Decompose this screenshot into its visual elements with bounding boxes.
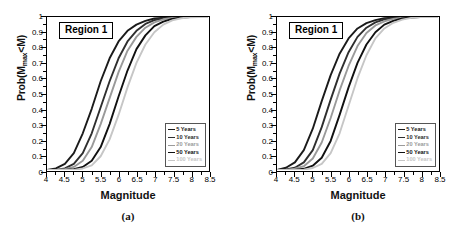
plot-area-b: Region 1 5 Years10 Years20 Years50 Years…: [276, 16, 440, 172]
y-tick-mark: [271, 47, 276, 48]
x-tick-mark: [404, 172, 405, 177]
legend-item[interactable]: 100 Years: [398, 156, 432, 164]
y-tick-labels-b: 00.10.20.30.40.50.60.70.80.91: [244, 16, 273, 172]
x-tick-mark: [155, 172, 156, 177]
x-tick-mark: [331, 172, 332, 177]
y-tick-minor: [273, 133, 276, 134]
x-tick-mark: [210, 172, 211, 177]
legend-item-label: 5 Years: [176, 127, 196, 133]
legend-item-label: 100 Years: [406, 157, 432, 163]
y-tick-mark: [271, 32, 276, 33]
x-tick-mark: [312, 172, 313, 177]
legend-item[interactable]: 100 Years: [168, 156, 202, 164]
x-tick-mark: [367, 172, 368, 177]
y-tick-mark: [41, 94, 46, 95]
x-tick-minor: [303, 172, 304, 175]
y-tick-mark: [41, 63, 46, 64]
y-tick-minor: [273, 164, 276, 165]
figure-container: Prob(Mmax<M) 00.10.20.30.40.50.60.70.80.…: [0, 0, 459, 245]
legend-item[interactable]: 10 Years: [168, 134, 202, 142]
x-axis-title-b: Magnitude: [276, 189, 440, 201]
x-tick-minor: [164, 172, 165, 175]
x-tick-mark: [46, 172, 47, 177]
panel-letter-a: (a): [46, 210, 210, 222]
y-tick-mark: [271, 156, 276, 157]
y-tick-mark: [271, 78, 276, 79]
legend-item[interactable]: 5 Years: [398, 126, 432, 134]
y-tick-minor: [273, 117, 276, 118]
x-tick-minor: [358, 172, 359, 175]
x-tick-mark: [294, 172, 295, 177]
y-tick-minor: [43, 117, 46, 118]
panel-b: Prob(Mmax<M) 00.10.20.30.40.50.60.70.80.…: [230, 0, 459, 245]
legend-line-swatch: [168, 137, 175, 138]
x-tick-minor: [201, 172, 202, 175]
x-tick-mark: [349, 172, 350, 177]
legend-line-swatch: [398, 152, 405, 153]
legend-item-label: 20 Years: [406, 142, 429, 148]
y-tick-minor: [43, 86, 46, 87]
panel-a: Prob(Mmax<M) 00.10.20.30.40.50.60.70.80.…: [0, 0, 229, 245]
y-tick-minor: [43, 149, 46, 150]
y-tick-minor: [273, 86, 276, 87]
y-tick-minor: [273, 24, 276, 25]
x-tick-mark: [64, 172, 65, 177]
x-tick-mark: [119, 172, 120, 177]
y-tick-minor: [273, 71, 276, 72]
x-tick-minor: [183, 172, 184, 175]
y-tick-minor: [43, 133, 46, 134]
legend-item[interactable]: 50 Years: [168, 149, 202, 157]
legend-b: 5 Years10 Years20 Years50 Years100 Years: [395, 123, 436, 167]
legend-item[interactable]: 10 Years: [398, 134, 432, 142]
y-tick-minor: [43, 39, 46, 40]
x-tick-mark: [276, 172, 277, 177]
x-axis-title-a: Magnitude: [46, 189, 210, 201]
y-tick-mark: [41, 141, 46, 142]
x-tick-mark: [137, 172, 138, 177]
legend-item[interactable]: 20 Years: [168, 141, 202, 149]
x-tick-minor: [73, 172, 74, 175]
x-tick-mark: [192, 172, 193, 177]
legend-line-swatch: [398, 137, 405, 138]
y-tick-minor: [43, 55, 46, 56]
legend-line-swatch: [168, 152, 175, 153]
x-tick-mark: [422, 172, 423, 177]
legend-item[interactable]: 50 Years: [398, 149, 432, 157]
legend-item-label: 100 Years: [176, 157, 202, 163]
y-tick-mark: [41, 16, 46, 17]
legend-line-swatch: [168, 160, 175, 161]
y-tick-minor: [43, 102, 46, 103]
y-tick-minor: [43, 164, 46, 165]
region-label-b: Region 1: [289, 22, 343, 39]
y-tick-minor: [273, 55, 276, 56]
y-tick-labels-a: 00.10.20.30.40.50.60.70.80.91: [14, 16, 43, 172]
legend-item-label: 50 Years: [176, 150, 199, 156]
legend-a: 5 Years10 Years20 Years50 Years100 Years: [165, 123, 206, 167]
y-tick-mark: [271, 141, 276, 142]
x-tick-minor: [322, 172, 323, 175]
y-tick-mark: [41, 156, 46, 157]
x-tick-minor: [146, 172, 147, 175]
y-tick-mark: [271, 125, 276, 126]
y-tick-mark: [271, 94, 276, 95]
x-tick-minor: [340, 172, 341, 175]
y-tick-mark: [41, 78, 46, 79]
x-tick-minor: [92, 172, 93, 175]
legend-item-label: 10 Years: [176, 135, 199, 141]
y-tick-minor: [43, 71, 46, 72]
legend-line-swatch: [398, 160, 405, 161]
y-tick-mark: [271, 16, 276, 17]
y-tick-mark: [41, 125, 46, 126]
x-tick-mark: [174, 172, 175, 177]
x-tick-labels-a: 44.555.566.577.588.5: [46, 175, 210, 187]
y-tick-minor: [273, 39, 276, 40]
legend-item-label: 10 Years: [406, 135, 429, 141]
x-tick-minor: [285, 172, 286, 175]
legend-item[interactable]: 5 Years: [168, 126, 202, 134]
legend-item[interactable]: 20 Years: [398, 141, 432, 149]
legend-line-swatch: [398, 145, 405, 146]
x-tick-mark: [440, 172, 441, 177]
region-label-a: Region 1: [59, 22, 113, 39]
y-tick-mark: [271, 110, 276, 111]
y-tick-minor: [43, 24, 46, 25]
